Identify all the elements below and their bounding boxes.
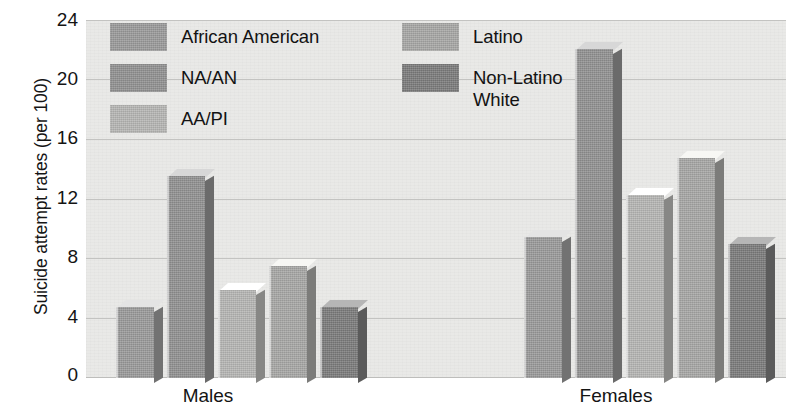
bar-side-face — [766, 244, 775, 383]
legend-item-aa-pi: AA/PI — [110, 105, 319, 137]
bar-side-face — [154, 306, 163, 383]
legend-swatch-icon — [110, 64, 167, 92]
bar-front-face — [728, 244, 766, 378]
x-group-label-females: Females — [580, 385, 653, 407]
y-tick-label-8: 8 — [34, 246, 78, 268]
y-tick-label-4: 4 — [34, 306, 78, 328]
legend-label: NA/AN — [181, 64, 237, 89]
bar-front-face — [269, 266, 307, 378]
bar-left-highlight — [218, 290, 220, 378]
y-tick-label-12: 12 — [34, 187, 78, 209]
bar-front-face — [575, 49, 613, 378]
legend-label: Latino — [473, 23, 523, 48]
bar-males-latino — [269, 266, 307, 378]
legend-item-african-american: African American — [110, 23, 319, 55]
y-tick-label-24: 24 — [34, 9, 78, 31]
legend-column-left: African American NA/AN AA/PI — [110, 23, 319, 146]
bar-front-face — [626, 195, 664, 378]
bar-side-face — [307, 266, 316, 383]
bar-front-face — [524, 237, 562, 378]
bar-males-aa-pi — [218, 290, 256, 378]
legend-item-na-an: NA/AN — [110, 64, 319, 96]
legend-item-non-latino-white: Non-Latino White — [402, 64, 563, 96]
bar-side-face — [613, 49, 622, 383]
bar-left-highlight — [524, 237, 526, 378]
legend-swatch-icon — [110, 105, 167, 133]
bar-left-highlight — [167, 176, 169, 378]
legend-column-right: Latino Non-Latino White — [402, 23, 563, 105]
gridline-24 — [86, 20, 786, 21]
y-tick-label-16: 16 — [34, 127, 78, 149]
bar-chart: Suicide attempt rates (per 100) 24 20 16… — [0, 0, 791, 420]
bar-males-non-latino-white — [320, 307, 358, 378]
legend-label: African American — [181, 23, 319, 48]
bar-front-face — [167, 176, 205, 378]
bar-males-na-an — [167, 176, 205, 378]
bar-left-highlight — [575, 49, 577, 378]
bar-side-face — [205, 176, 214, 383]
bar-side-face — [562, 236, 571, 383]
bar-females-na-an — [575, 49, 613, 378]
legend-label: Non-Latino White — [473, 64, 563, 111]
bar-left-highlight — [116, 307, 118, 378]
legend-label: AA/PI — [181, 105, 228, 130]
y-tick-label-0: 0 — [34, 364, 78, 386]
bar-front-face — [218, 290, 256, 378]
bar-side-face — [715, 158, 724, 383]
bar-side-face — [664, 195, 673, 383]
bar-left-highlight — [677, 158, 679, 378]
legend-swatch-icon — [402, 64, 459, 92]
bar-females-latino — [677, 158, 715, 378]
bar-left-highlight — [728, 244, 730, 378]
bar-females-non-latino-white — [728, 244, 766, 378]
bar-side-face — [358, 306, 367, 383]
bar-males-african-american — [116, 307, 154, 378]
bar-front-face — [677, 158, 715, 378]
x-group-label-males: Males — [183, 385, 234, 407]
legend-swatch-icon — [402, 23, 459, 51]
legend-swatch-icon — [110, 23, 167, 51]
y-tick-label-20: 20 — [34, 68, 78, 90]
bar-females-aa-pi — [626, 195, 664, 378]
bar-females-african-american — [524, 237, 562, 378]
bar-front-face — [116, 307, 154, 378]
bar-left-highlight — [269, 266, 271, 378]
bar-front-face — [320, 307, 358, 378]
bar-side-face — [256, 290, 265, 383]
bar-left-highlight — [320, 307, 322, 378]
legend-item-latino: Latino — [402, 23, 563, 55]
bar-left-highlight — [626, 195, 628, 378]
